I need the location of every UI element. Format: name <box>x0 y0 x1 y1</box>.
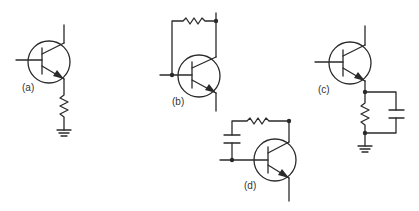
emitter-arrow-icon <box>53 70 64 79</box>
emitter-arrow-icon <box>205 84 216 93</box>
collector-line <box>42 43 64 54</box>
collector-line <box>343 45 365 56</box>
circuit-a: (a) <box>16 25 71 136</box>
label-c: (c) <box>318 84 330 95</box>
transistor-envelope <box>329 42 371 84</box>
label-b: (b) <box>172 96 184 107</box>
label-a: (a) <box>22 82 34 93</box>
emitter-arrow-icon <box>354 72 365 81</box>
circuit-c: (c) <box>315 26 404 152</box>
circuit-d: (d) <box>220 118 296 201</box>
bypass-wire-top <box>365 92 396 110</box>
collector-line <box>268 142 289 153</box>
collector-line <box>192 57 216 68</box>
circuit-diagram: (a) (b) (c) <box>0 0 419 211</box>
emitter-resistor <box>60 79 68 130</box>
circuit-b: (b) <box>160 13 220 111</box>
transistor-envelope <box>28 41 70 83</box>
feedback-resistor <box>232 118 289 135</box>
bypass-wire-bottom <box>365 118 396 133</box>
label-d: (d) <box>244 180 256 191</box>
emitter-resistor <box>361 92 369 133</box>
emitter-arrow-icon <box>278 169 289 178</box>
